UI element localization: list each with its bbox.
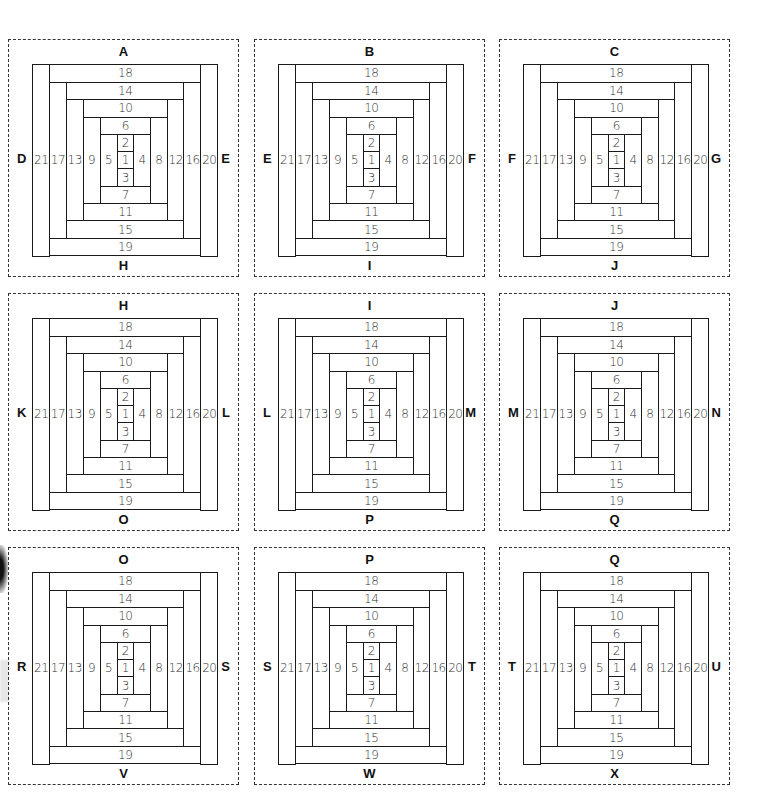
quilt-piece: 21 <box>32 64 50 257</box>
quilt-piece: 10 <box>83 607 169 626</box>
quilt-piece: 14 <box>312 81 431 100</box>
quilt-piece: 14 <box>66 589 185 608</box>
quilt-piece: 1 <box>362 405 380 424</box>
quilt-piece: 19 <box>49 238 202 257</box>
quilt-block: QTUX123456789101112131415161718192021 <box>499 547 730 785</box>
quilt-piece: 16 <box>429 589 447 747</box>
quilt-piece: 16 <box>674 81 692 239</box>
quilt-piece: 6 <box>345 624 397 643</box>
edge-label-right: F <box>468 151 476 166</box>
quilt-piece: 2 <box>116 134 134 153</box>
quilt-piece: 13 <box>66 607 84 730</box>
quilt-piece: 3 <box>362 422 380 441</box>
artifact-dark-edge <box>0 545 8 593</box>
quilt-piece: 3 <box>362 168 380 187</box>
edge-label-right: M <box>465 405 476 420</box>
edge-label-left: F <box>508 151 516 166</box>
edge-label-left: D <box>17 151 26 166</box>
quilt-piece: 21 <box>523 64 541 257</box>
quilt-piece: 10 <box>83 99 169 118</box>
edge-label-top: Q <box>500 552 729 567</box>
quilt-piece: 1 <box>607 405 625 424</box>
quilt-piece: 1 <box>607 659 625 678</box>
quilt-piece: 18 <box>49 572 202 591</box>
quilt-piece: 15 <box>312 728 431 747</box>
quilt-piece: 9 <box>574 624 592 712</box>
quilt-piece: 4 <box>133 134 151 188</box>
quilt-block: PSTW123456789101112131415161718192021 <box>254 547 485 785</box>
quilt-piece: 18 <box>540 572 693 591</box>
quilt-piece: 16 <box>183 81 201 239</box>
quilt-piece: 7 <box>345 186 397 205</box>
quilt-piece: 21 <box>523 318 541 511</box>
quilt-piece: 6 <box>590 370 642 389</box>
quilt-piece: 3 <box>116 422 134 441</box>
quilt-piece: 11 <box>329 457 415 476</box>
quilt-piece: 9 <box>329 116 347 204</box>
edge-label-bottom: Q <box>500 512 729 527</box>
quilt-piece: 7 <box>345 440 397 459</box>
edge-label-right: G <box>711 151 721 166</box>
quilt-piece: 18 <box>295 64 448 83</box>
edge-label-bottom: I <box>255 258 484 273</box>
edge-label-left: E <box>263 151 272 166</box>
quilt-piece: 11 <box>329 711 415 730</box>
quilt-piece: 17 <box>295 589 313 747</box>
quilt-piece: 15 <box>66 474 185 493</box>
quilt-piece: 2 <box>116 388 134 407</box>
quilt-piece: 20 <box>200 572 218 765</box>
quilt-piece: 10 <box>329 607 415 626</box>
quilt-piece: 17 <box>49 589 67 747</box>
quilt-piece: 11 <box>83 711 169 730</box>
quilt-piece: 13 <box>557 353 575 476</box>
quilt-piece: 8 <box>150 624 168 712</box>
quilt-block: BEFI123456789101112131415161718192021 <box>254 39 485 277</box>
quilt-piece: 18 <box>295 572 448 591</box>
edge-label-top: B <box>255 44 484 59</box>
quilt-piece: 15 <box>312 474 431 493</box>
quilt-piece: 21 <box>32 572 50 765</box>
quilt-block: JMNQ123456789101112131415161718192021 <box>499 293 730 531</box>
quilt-piece: 12 <box>413 99 431 222</box>
log-cabin-block: 123456789101112131415161718192021 <box>32 318 217 509</box>
quilt-piece: 14 <box>66 335 185 354</box>
quilt-piece: 5 <box>99 642 117 696</box>
quilt-piece: 2 <box>362 642 380 661</box>
quilt-piece: 7 <box>590 440 642 459</box>
quilt-piece: 13 <box>66 353 84 476</box>
edge-label-bottom: X <box>500 766 729 781</box>
quilt-piece: 15 <box>557 220 676 239</box>
quilt-piece: 14 <box>557 81 676 100</box>
quilt-piece: 4 <box>379 134 397 188</box>
quilt-block: ADEH123456789101112131415161718192021 <box>8 39 239 277</box>
quilt-piece: 19 <box>295 238 448 257</box>
quilt-piece: 16 <box>674 589 692 747</box>
quilt-piece: 7 <box>590 694 642 713</box>
quilt-piece: 19 <box>540 746 693 765</box>
edge-label-left: L <box>263 405 271 420</box>
quilt-piece: 10 <box>329 99 415 118</box>
edge-label-bottom: P <box>255 512 484 527</box>
log-cabin-block: 123456789101112131415161718192021 <box>32 572 217 763</box>
quilt-piece: 9 <box>83 624 101 712</box>
quilt-piece: 2 <box>362 134 380 153</box>
quilt-piece: 20 <box>691 572 709 765</box>
quilt-piece: 18 <box>295 318 448 337</box>
quilt-piece: 21 <box>278 64 296 257</box>
quilt-piece: 20 <box>200 318 218 511</box>
quilt-piece: 10 <box>574 607 660 626</box>
quilt-piece: 10 <box>574 99 660 118</box>
quilt-piece: 8 <box>641 370 659 458</box>
quilt-piece: 8 <box>641 116 659 204</box>
quilt-piece: 1 <box>116 659 134 678</box>
edge-label-top: I <box>255 298 484 313</box>
edge-label-left: S <box>263 659 272 674</box>
quilt-piece: 16 <box>429 81 447 239</box>
quilt-piece: 17 <box>540 81 558 239</box>
edge-label-top: C <box>500 44 729 59</box>
quilt-block: ILMP123456789101112131415161718192021 <box>254 293 485 531</box>
quilt-piece: 2 <box>362 388 380 407</box>
quilt-piece: 15 <box>557 728 676 747</box>
edge-label-right: E <box>221 151 230 166</box>
quilt-piece: 5 <box>345 642 363 696</box>
